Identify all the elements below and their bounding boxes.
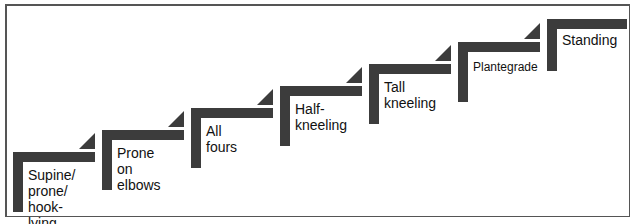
step-riser <box>280 86 290 146</box>
step-label: Tall kneeling <box>384 79 436 111</box>
step-riser <box>191 108 201 168</box>
step-arrow-triangle <box>435 45 451 61</box>
step-tread <box>458 42 540 52</box>
step-arrow-triangle <box>524 23 540 39</box>
step-riser <box>458 42 468 102</box>
step-label: Half- kneeling <box>295 101 347 133</box>
step-riser <box>369 64 379 124</box>
step-label: Prone on elbows <box>117 145 161 193</box>
step-tread <box>369 64 451 74</box>
step-arrow-triangle <box>79 133 95 149</box>
step-tread <box>191 108 273 118</box>
step-arrow-triangle <box>346 67 362 83</box>
step-arrow-triangle <box>168 111 184 127</box>
step-arrow-triangle <box>257 89 273 105</box>
step-label: Standing <box>562 32 617 48</box>
step-label: Plantegrade <box>473 59 538 75</box>
step-riser <box>102 130 112 190</box>
step-tread <box>547 19 627 29</box>
step-tread <box>13 152 95 162</box>
step-riser <box>547 19 557 71</box>
step-riser <box>13 152 23 212</box>
step-tread <box>280 86 362 96</box>
step-label: Supine/ prone/ hook-lying <box>28 167 75 224</box>
step-tread <box>102 130 184 140</box>
step-label: All fours <box>206 123 237 155</box>
